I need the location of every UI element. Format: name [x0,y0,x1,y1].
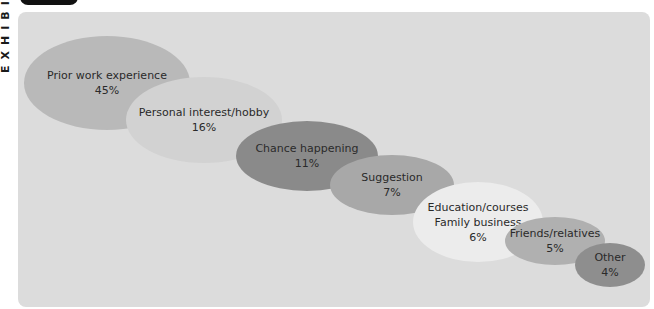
bubble-percentage: 4% [601,265,618,280]
bubble-label: Prior work experience [47,68,167,83]
bubble-percentage: 5% [546,241,563,256]
bubble-label: Suggestion [361,170,423,185]
bubble-other: Other4% [575,243,645,287]
bubble-percentage: 16% [192,120,216,135]
bubble-label: Other [594,250,625,265]
bubble-label: Personal interest/hobby [139,105,269,120]
exhibit-tab [20,0,78,5]
bubble-label: Friends/relatives [510,226,601,241]
bubble-label: Chance happening [255,141,358,156]
bubble-percentage: 11% [295,156,319,171]
bubble-label: Family business [435,215,522,230]
bubble-percentage: 7% [383,185,400,200]
bubble-percentage: 45% [95,83,119,98]
bubble-label: Education/courses [428,200,529,215]
exhibit-side-label: EXHIBIT [0,3,11,73]
bubble-percentage: 6% [469,230,486,245]
